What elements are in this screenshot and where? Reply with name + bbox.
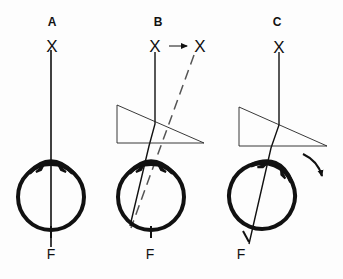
prism-c [239, 107, 327, 146]
displaced-target-x-b: X [194, 38, 205, 55]
rotation-arrow-icon [303, 154, 322, 176]
panel-label-a: A [48, 16, 57, 28]
panel-a [18, 50, 84, 247]
line-of-sight-c [249, 52, 279, 244]
target-x-b: X [149, 38, 160, 55]
prism-eye-diagram: A X F B X X F C X F [0, 0, 343, 279]
eye-c-rotated [219, 151, 306, 239]
line-of-sight-b [130, 52, 155, 226]
eye-b [118, 162, 184, 231]
panel-label-c: C [273, 16, 282, 28]
panel-label-b: B [154, 16, 163, 28]
panel-c [219, 52, 327, 244]
fovea-label-a: F [47, 247, 56, 261]
target-x-a: X [46, 38, 57, 55]
panel-b [117, 46, 204, 238]
fovea-label-b: F [146, 247, 155, 261]
prism-b [117, 105, 204, 143]
fovea-label-c: F [237, 247, 246, 261]
fovea-tick-c [243, 231, 249, 242]
target-x-c: X [273, 39, 284, 56]
